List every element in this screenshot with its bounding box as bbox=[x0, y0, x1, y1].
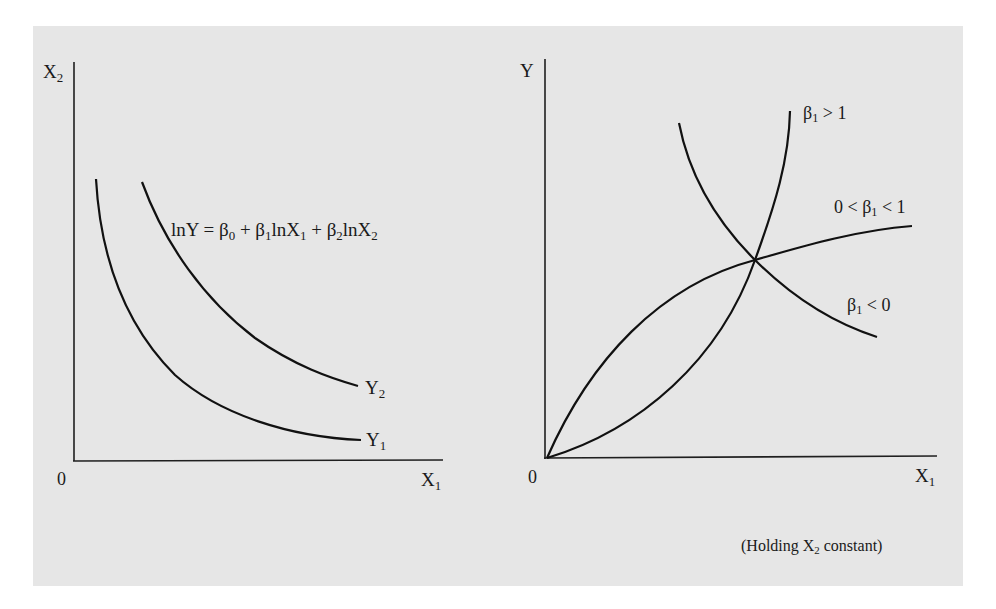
left-y-axis-label: X2 bbox=[43, 62, 63, 81]
curve-beta-gt-1 bbox=[547, 111, 790, 458]
label-beta-gt-1: β1 > 1 bbox=[803, 104, 846, 122]
isoquant-y2-label: Y2 bbox=[365, 378, 385, 397]
left-x-axis-label: X1 bbox=[421, 470, 441, 489]
holding-constant-note: (Holding X2 constant) bbox=[741, 538, 882, 554]
label-beta-between-0-1: 0 < β1 < 1 bbox=[834, 198, 906, 216]
right-origin-label: 0 bbox=[528, 468, 537, 486]
curve-beta-between-0-1 bbox=[547, 226, 912, 458]
isoquant-y2 bbox=[142, 182, 358, 386]
left-origin-label: 0 bbox=[57, 470, 66, 488]
isoquant-y1-label: Y1 bbox=[366, 430, 386, 449]
right-x-axis-label: X1 bbox=[915, 466, 935, 485]
right-chart bbox=[544, 59, 937, 459]
left-chart bbox=[73, 62, 443, 461]
label-beta-lt-0: β1 < 0 bbox=[847, 296, 890, 314]
equation-label: lnY = β0 + β1lnX1 + β2lnX2 bbox=[171, 220, 378, 239]
left-x-axis bbox=[73, 460, 443, 461]
right-y-axis-label: Y bbox=[520, 61, 534, 80]
right-x-axis bbox=[544, 456, 937, 458]
